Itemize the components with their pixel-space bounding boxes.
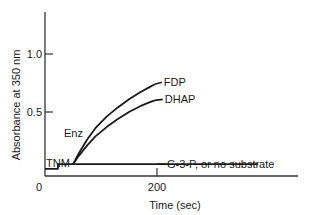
x-tick-label: 200 (148, 181, 166, 193)
annotation-enz: Enz (64, 127, 83, 139)
x-tick-label: 0 (36, 181, 42, 193)
annotation-tnm: TNM (46, 157, 70, 169)
y-tick-label: 0.5 (27, 106, 42, 118)
y-tick-label: 1.0 (27, 48, 42, 60)
leader-line-fdp (155, 82, 162, 84)
series-label-fdp: FDP (164, 76, 186, 88)
series-label-dhap: DHAP (165, 93, 196, 105)
series-group (45, 82, 258, 169)
x-axis-title: Time (sec) (149, 199, 201, 211)
series-line-fdp (73, 84, 155, 164)
ticks: 0.51.00200 (27, 48, 166, 193)
leader-line-dhap (155, 99, 163, 100)
y-axis-title: Absorbance at 350 nm (10, 50, 22, 161)
absorbance-chart: 0.51.00200 Time (sec) Absorbance at 350 … (0, 0, 316, 215)
labels-group: Time (sec) Absorbance at 350 nm TNM Enz … (10, 50, 274, 211)
series-label-g3p: G-3-P, or no substrate (167, 158, 274, 170)
